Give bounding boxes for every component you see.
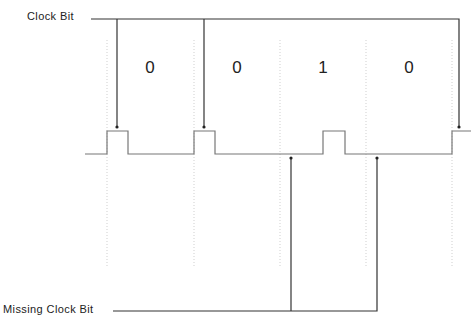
missing-clock-bit-label: Missing Clock Bit — [3, 303, 94, 315]
arrow-tip-icon — [202, 125, 205, 128]
bit-value-2: 0 — [232, 58, 241, 77]
missing-clock-bit-arrow-tips — [289, 156, 378, 159]
signal-waveform — [85, 131, 471, 154]
clock-bit-label: Clock Bit — [27, 10, 74, 22]
arrow-tip-icon — [375, 156, 378, 159]
bit-value-4: 0 — [404, 58, 413, 77]
bit-value-3: 1 — [318, 58, 327, 77]
bit-value-1: 0 — [145, 58, 154, 77]
clock-bit-arrow-tips — [115, 125, 460, 128]
timing-diagram: Clock Bit 0 0 1 0 Missing Clock Bit — [0, 0, 471, 326]
arrow-tip-icon — [115, 125, 118, 128]
cell-boundaries — [107, 40, 452, 266]
arrow-tip-icon — [457, 125, 460, 128]
arrow-tip-icon — [289, 156, 292, 159]
missing-clock-bit-pointer — [113, 158, 377, 311]
